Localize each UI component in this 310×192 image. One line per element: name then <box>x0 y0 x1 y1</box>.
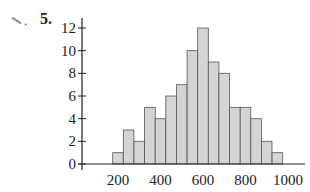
y-tick-label: 2 <box>69 133 77 149</box>
y-tick-label: 0 <box>69 156 77 172</box>
histogram-bar <box>230 107 241 164</box>
bars-group <box>113 28 283 164</box>
y-tick-label: 8 <box>69 65 77 81</box>
x-tick-label: 600 <box>192 172 215 188</box>
y-tick-label: 10 <box>61 43 76 59</box>
histogram-bar <box>155 119 166 164</box>
histogram-bar <box>208 62 219 164</box>
histogram-bar <box>251 119 262 164</box>
x-tick-label: 200 <box>107 172 130 188</box>
y-tick-label: 12 <box>61 20 76 36</box>
histogram-bar <box>261 141 272 164</box>
y-tick-label: 6 <box>69 88 77 104</box>
histogram-bar <box>134 141 145 164</box>
histogram-bar <box>272 153 283 164</box>
histogram-bar <box>166 96 177 164</box>
histogram-bar <box>123 130 134 164</box>
histogram-bar <box>187 51 198 164</box>
histogram-bar <box>198 28 209 164</box>
y-tick-label: 4 <box>69 111 77 127</box>
histogram-bar <box>176 85 187 164</box>
histogram-bar <box>113 153 124 164</box>
histogram-bar <box>240 107 251 164</box>
histogram-bar <box>219 73 230 164</box>
histogram: 024681012 2004006008001000 <box>0 0 310 192</box>
x-tick-label: 400 <box>149 172 172 188</box>
histogram-bar <box>145 107 156 164</box>
x-tick-label: 800 <box>234 172 257 188</box>
x-ticks: 2004006008001000 <box>107 172 303 188</box>
x-tick-label: 1000 <box>273 172 303 188</box>
